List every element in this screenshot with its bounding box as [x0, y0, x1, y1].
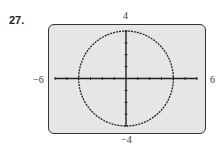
graph-plot	[0, 0, 220, 147]
